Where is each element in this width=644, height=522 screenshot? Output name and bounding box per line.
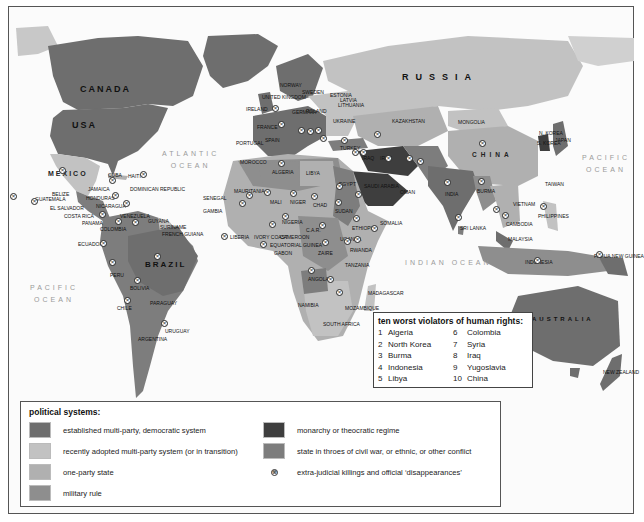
killings-marker-icon: × (311, 193, 318, 200)
country-label: N. KOREA (539, 130, 563, 136)
country-label: SPAIN (265, 137, 280, 143)
country-label: TAIWAN (545, 181, 564, 187)
country-label: MADAGASCAR (368, 290, 404, 296)
legend-label: monarchy or theocratic regime (297, 426, 400, 435)
violator-name: Indonesia (388, 363, 423, 372)
killings-marker-icon: × (161, 320, 168, 327)
violator-name: Algeria (388, 328, 413, 337)
killings-marker-icon: × (385, 155, 392, 162)
killings-marker-icon: × (239, 200, 246, 207)
country-label: INDIA (445, 191, 458, 197)
killings-marker-icon: × (278, 160, 285, 167)
killings-marker-icon: × (264, 189, 271, 196)
violator-item: 10China (453, 373, 528, 385)
killings-marker-icon: × (596, 251, 603, 258)
killings-marker-icon: × (308, 267, 315, 274)
killings-marker-icon: × (298, 127, 305, 134)
violator-name: China (467, 374, 488, 383)
violator-rank: 7 (453, 339, 467, 351)
killings-marker-icon: × (444, 179, 451, 186)
killings-marker-icon: × (140, 171, 147, 178)
violators-col-right: 6Colombia 7Syria 8Iraq 9Yugoslavia 10Chi… (453, 327, 528, 385)
country-label: POLAND (306, 108, 327, 114)
killings-marker-icon: × (100, 240, 107, 247)
country-label: ARGENTINA (138, 336, 167, 342)
label-canada: CANADA (80, 84, 131, 94)
country-label: MALAYSIA (508, 236, 533, 242)
country-label: CAMEROON (280, 234, 309, 240)
legend-swatch (29, 464, 51, 480)
killings-marker-icon: × (10, 193, 17, 200)
country-label: PORTUGAL (236, 140, 263, 146)
violator-rank: 4 (378, 362, 388, 374)
country-label: IRELAND (246, 106, 268, 112)
killings-marker-icon: × (112, 192, 119, 199)
legend-item-military: military rule (29, 485, 102, 501)
violator-name: Colombia (467, 328, 501, 337)
killings-marker-icon: × (336, 183, 343, 190)
legend-swatch (263, 443, 285, 459)
killings-marker-icon: × (315, 127, 322, 134)
killings-marker-icon: × (354, 236, 361, 243)
country-label: SOMALIA (380, 220, 402, 226)
country-label: C.A.R. (306, 227, 321, 233)
violator-item: 6Colombia (453, 327, 528, 339)
violator-name: Iraq (467, 351, 481, 360)
killings-marker-icon: × (479, 140, 486, 147)
ocean-label-line: ATLANTIC (162, 148, 219, 160)
country-label: PHILIPPINES (538, 213, 569, 219)
killings-marker-icon: × (134, 277, 141, 284)
country-label: NAMIBIA (298, 302, 319, 308)
killings-marker-icon: × (322, 239, 329, 246)
label-mexico: MEXICO (48, 170, 88, 177)
violators-panel: ten worst violators of human rights: 1Al… (373, 312, 533, 388)
killings-marker-icon: × (272, 105, 279, 112)
legend-item-democratic: established multi-party, democratic syst… (29, 422, 206, 438)
violator-name: Syria (467, 340, 485, 349)
killings-marker-icon: × (59, 167, 66, 174)
country-label: UNITED KINGDOM (262, 94, 306, 100)
atlantic-ocean-label: ATLANTIC OCEAN (162, 148, 219, 172)
country-label: LITHUANIA (338, 102, 364, 108)
legend-label: established multi-party, democratic syst… (63, 426, 206, 435)
killings-marker-icon: × (455, 214, 462, 221)
violators-title: ten worst violators of human rights: (378, 316, 528, 326)
country-label: PARAGUAY (150, 300, 177, 306)
ocean-label-line: PACIFIC (30, 282, 78, 294)
country-label: RWANDA (350, 247, 372, 253)
killings-marker-icon: × (352, 149, 359, 156)
violator-rank: 2 (378, 339, 388, 351)
killings-marker-icon: × (478, 178, 485, 185)
country-label: MOROCCO (240, 159, 267, 165)
country-label: CAMBODIA (506, 221, 533, 227)
violator-rank: 9 (453, 362, 467, 374)
country-label: ZAIRE (318, 250, 333, 256)
country-label: NIGER (290, 199, 306, 205)
country-label: DOMINICAN REPUBLIC (130, 186, 185, 192)
country-label: CHAD (313, 202, 327, 208)
country-label: BURMA (477, 188, 495, 194)
killings-marker-icon: × (115, 218, 122, 225)
country-label: HAITI (128, 173, 141, 179)
pacific-ocean-west-label: PACIFIC OCEAN (30, 282, 78, 306)
country-label: PERU (110, 272, 124, 278)
violator-name: Yugoslavia (467, 363, 506, 372)
country-label: NEW ZEALAND (603, 369, 639, 375)
killings-marker-icon: × (99, 211, 106, 218)
country-label: LIBYA (306, 170, 320, 176)
country-label: SUDAN (335, 208, 353, 214)
killings-marker-icon: × (335, 199, 342, 206)
country-label: EL SALVADOR (50, 205, 84, 211)
pacific-ocean-east-label: PACIFIC OCEAN (582, 152, 630, 176)
legend-item-conflict: state in throes of civil war, or ethnic,… (263, 443, 471, 459)
ocean-label-line: OCEAN (582, 164, 630, 176)
legend-swatch (29, 485, 51, 501)
killings-marker-icon: × (278, 121, 285, 128)
legend-label: military rule (63, 489, 102, 498)
country-label: SURINAME (160, 224, 186, 230)
indian-ocean-label: INDIAN OCEAN (405, 257, 492, 269)
violator-name: Libya (388, 374, 407, 383)
killings-marker-icon: × (360, 149, 367, 156)
country-label: LIBERIA (230, 234, 249, 240)
killings-marker-icon: × (353, 215, 360, 222)
